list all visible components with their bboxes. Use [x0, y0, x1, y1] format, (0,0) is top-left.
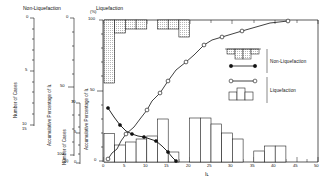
xaxis-title: Iʟ [205, 172, 209, 177]
legend: Non-Liquefaction Liquefaction [221, 47, 325, 105]
legend-label-liquefaction: Liquefaction [270, 89, 296, 94]
xtick-10: 10 [143, 164, 148, 168]
xtick-15: 15 [164, 164, 169, 168]
xtick-5: 5 [123, 164, 125, 168]
xtick-30: 30 [228, 164, 233, 168]
xtick-45: 45 [293, 164, 298, 168]
xtick-25: 25 [207, 164, 212, 168]
figure-root: Non-Liquefaction Liquefaction 0 5 10 Nu [0, 0, 327, 181]
xtick-0: 0 [102, 164, 104, 168]
xtick-35: 35 [250, 164, 255, 168]
xtick-50: 50 [314, 164, 319, 168]
xtick-40: 40 [271, 164, 276, 168]
legend-label-non-liquefaction: Non-Liquefaction [270, 60, 306, 65]
xtick-20: 20 [186, 164, 191, 168]
